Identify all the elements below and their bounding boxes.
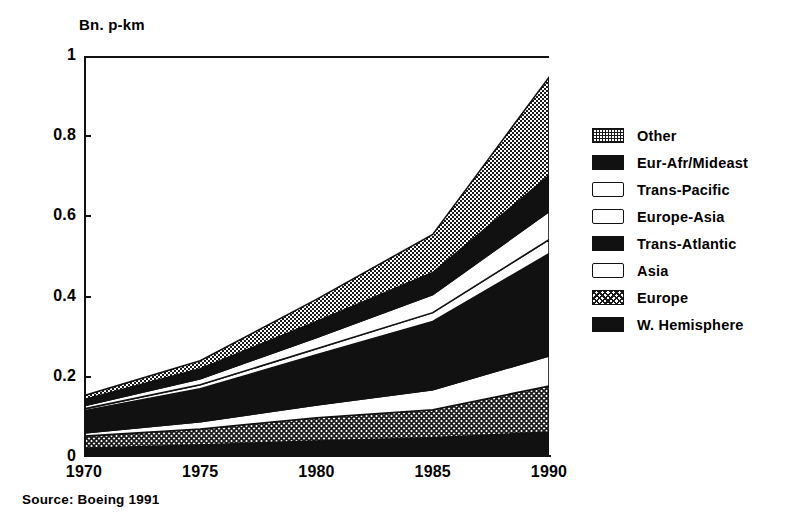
legend-label: Trans-Atlantic <box>637 236 737 252</box>
legend-item: Europe <box>592 284 748 311</box>
legend-item: Other <box>592 122 748 149</box>
legend-item: Trans-Pacific <box>592 176 748 203</box>
y-tick-label: 1 <box>16 46 76 64</box>
legend-label: Asia <box>637 263 668 279</box>
y-tick-label: 0.4 <box>16 287 76 305</box>
legend-swatch <box>592 128 624 143</box>
x-tick-label: 1975 <box>160 463 240 481</box>
legend-swatch <box>592 209 624 224</box>
legend-label: Eur-Afr/Mideast <box>637 155 748 171</box>
legend-swatch <box>592 317 624 332</box>
legend-item: W. Hemisphere <box>592 311 748 338</box>
plot-area <box>84 56 549 457</box>
legend-item: Asia <box>592 257 748 284</box>
x-tick-label: 1980 <box>277 463 357 481</box>
x-tick-label: 1990 <box>509 463 589 481</box>
legend-label: Trans-Pacific <box>637 182 730 198</box>
y-tick-label: 0.6 <box>16 206 76 224</box>
y-tick-label: 0.2 <box>16 367 76 385</box>
legend-swatch <box>592 236 624 251</box>
legend-swatch <box>592 182 624 197</box>
stacked-area-chart-figure: Bn. p-km 00.20.40.60.81 1970197519801985… <box>0 0 807 527</box>
x-axis-line <box>84 455 551 457</box>
legend-swatch <box>592 155 624 170</box>
chart-legend: OtherEur-Afr/MideastTrans-PacificEurope-… <box>592 122 748 338</box>
y-axis-label: Bn. p-km <box>79 16 145 33</box>
legend-item: Eur-Afr/Mideast <box>592 149 748 176</box>
x-tick-label: 1970 <box>44 463 124 481</box>
legend-swatch <box>592 290 624 305</box>
legend-label: Other <box>637 128 677 144</box>
legend-item: Trans-Atlantic <box>592 230 748 257</box>
legend-label: W. Hemisphere <box>637 317 744 333</box>
y-tick-label: 0.8 <box>16 126 76 144</box>
legend-label: Europe-Asia <box>637 209 725 225</box>
legend-item: Europe-Asia <box>592 203 748 230</box>
legend-label: Europe <box>637 290 688 306</box>
stacked-area-series-group <box>84 56 549 457</box>
x-tick-label: 1985 <box>393 463 473 481</box>
legend-swatch <box>592 263 624 278</box>
source-caption: Source: Boeing 1991 <box>22 492 159 507</box>
